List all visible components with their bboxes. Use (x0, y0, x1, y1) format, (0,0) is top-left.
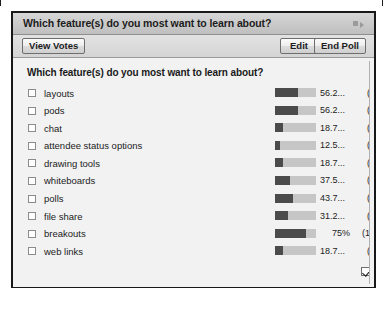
poll-option-percent: 18.7... (320, 123, 354, 133)
poll-option-bar (275, 211, 316, 220)
poll-option-bar-fill (275, 246, 283, 255)
poll-option-percent: 43.7... (320, 193, 354, 203)
poll-option-checkbox[interactable] (28, 107, 36, 115)
poll-option-percent: 18.7... (320, 246, 354, 256)
broadcast-results-checkbox[interactable] (361, 267, 370, 276)
poll-option-label: web links (44, 246, 83, 257)
poll-option-bar-fill (275, 229, 306, 238)
poll-pod-screenshot: Which feature(s) do you most want to lea… (0, 0, 383, 309)
poll-option-checkbox[interactable] (28, 124, 36, 132)
poll-option-label: polls (44, 193, 64, 204)
poll-option-row[interactable]: file share31.2...(5) (17, 208, 369, 226)
poll-option-label: drawing tools (44, 158, 100, 169)
poll-option-bar-fill (275, 194, 293, 203)
poll-option-count: (3) (354, 246, 370, 256)
poll-body: Which feature(s) do you most want to lea… (13, 58, 374, 287)
poll-option-row[interactable]: drawing tools18.7...(3) (17, 155, 369, 173)
poll-option-bar (275, 176, 316, 185)
poll-option-percent: 31.2... (320, 211, 354, 221)
poll-question: Which feature(s) do you most want to lea… (27, 67, 263, 78)
poll-option-label: pods (44, 105, 65, 116)
poll-results-panel: Which feature(s) do you most want to lea… (17, 61, 370, 284)
poll-option-bar (275, 229, 316, 238)
poll-option-checkbox[interactable] (28, 230, 36, 238)
poll-option-bar (275, 88, 316, 97)
poll-option-bar-fill (275, 176, 290, 185)
poll-option-count: (3) (354, 123, 370, 133)
poll-option-count: (7) (354, 193, 370, 203)
poll-option-bar (275, 246, 316, 255)
poll-option-bar-fill (275, 106, 298, 115)
poll-option-checkbox[interactable] (28, 159, 36, 167)
poll-option-row[interactable]: pods56.2...(9) (17, 103, 369, 121)
poll-option-bar-fill (275, 88, 298, 97)
poll-option-row[interactable]: breakouts75%(12) (17, 226, 369, 244)
pod-menu-square (353, 21, 358, 26)
poll-option-count: (9) (354, 88, 370, 98)
edit-button[interactable]: Edit (280, 38, 318, 54)
poll-option-bar-fill (275, 211, 288, 220)
poll-option-percent: 56.2... (320, 105, 354, 115)
poll-option-bar-fill (275, 141, 280, 150)
poll-pod-window: Which feature(s) do you most want to lea… (11, 11, 376, 288)
view-votes-button[interactable]: View Votes (22, 38, 85, 54)
poll-option-bar (275, 194, 316, 203)
pod-menu-icon[interactable] (353, 20, 366, 28)
poll-option-label: whiteboards (44, 175, 95, 186)
desktop-background (0, 0, 383, 11)
poll-option-label: layouts (44, 88, 74, 99)
chevron-right-icon (360, 22, 364, 28)
poll-options-list: layouts56.2...(9)pods56.2...(9)chat18.7.… (17, 85, 369, 261)
window-title: Which feature(s) do you most want to lea… (23, 17, 271, 29)
poll-option-checkbox[interactable] (28, 89, 36, 97)
poll-option-bar (275, 123, 316, 132)
poll-option-count: (3) (354, 158, 370, 168)
poll-option-row[interactable]: attendee status options12.5...(2) (17, 138, 369, 156)
poll-option-label: file share (44, 211, 83, 222)
poll-option-checkbox[interactable] (28, 177, 36, 185)
poll-option-checkbox[interactable] (28, 195, 36, 203)
poll-option-checkbox[interactable] (28, 142, 36, 150)
poll-option-label: chat (44, 123, 62, 134)
checkmark-icon (362, 267, 370, 276)
poll-option-bar-fill (275, 123, 283, 132)
poll-option-count: (6) (354, 175, 370, 185)
end-poll-button[interactable]: End Poll (314, 38, 366, 54)
poll-option-count: (2) (354, 140, 370, 150)
poll-option-row[interactable]: polls43.7...(7) (17, 191, 369, 209)
poll-option-percent: 18.7... (320, 158, 354, 168)
poll-toolbar: View Votes Edit End Poll (13, 35, 374, 58)
poll-option-checkbox[interactable] (28, 212, 36, 220)
poll-option-row[interactable]: layouts56.2...(9) (17, 85, 369, 103)
poll-option-count: (5) (354, 211, 370, 221)
poll-option-count: (12) (354, 228, 370, 238)
poll-option-row[interactable]: chat18.7...(3) (17, 120, 369, 138)
poll-option-percent: 75% (320, 228, 350, 238)
poll-option-row[interactable]: whiteboards37.5...(6) (17, 173, 369, 191)
poll-option-percent: 37.5... (320, 175, 354, 185)
poll-option-bar (275, 141, 316, 150)
below-window-area (0, 288, 383, 309)
poll-option-count: (9) (354, 105, 370, 115)
window-titlebar: Which feature(s) do you most want to lea… (13, 13, 374, 35)
poll-option-bar-fill (275, 158, 283, 167)
poll-option-percent: 56.2... (320, 88, 354, 98)
poll-option-bar (275, 106, 316, 115)
poll-option-percent: 12.5... (320, 140, 354, 150)
poll-option-label: attendee status options (44, 140, 142, 151)
poll-option-bar (275, 158, 316, 167)
poll-option-label: breakouts (44, 228, 86, 239)
poll-option-row[interactable]: web links18.7...(3) (17, 243, 369, 261)
poll-option-checkbox[interactable] (28, 247, 36, 255)
